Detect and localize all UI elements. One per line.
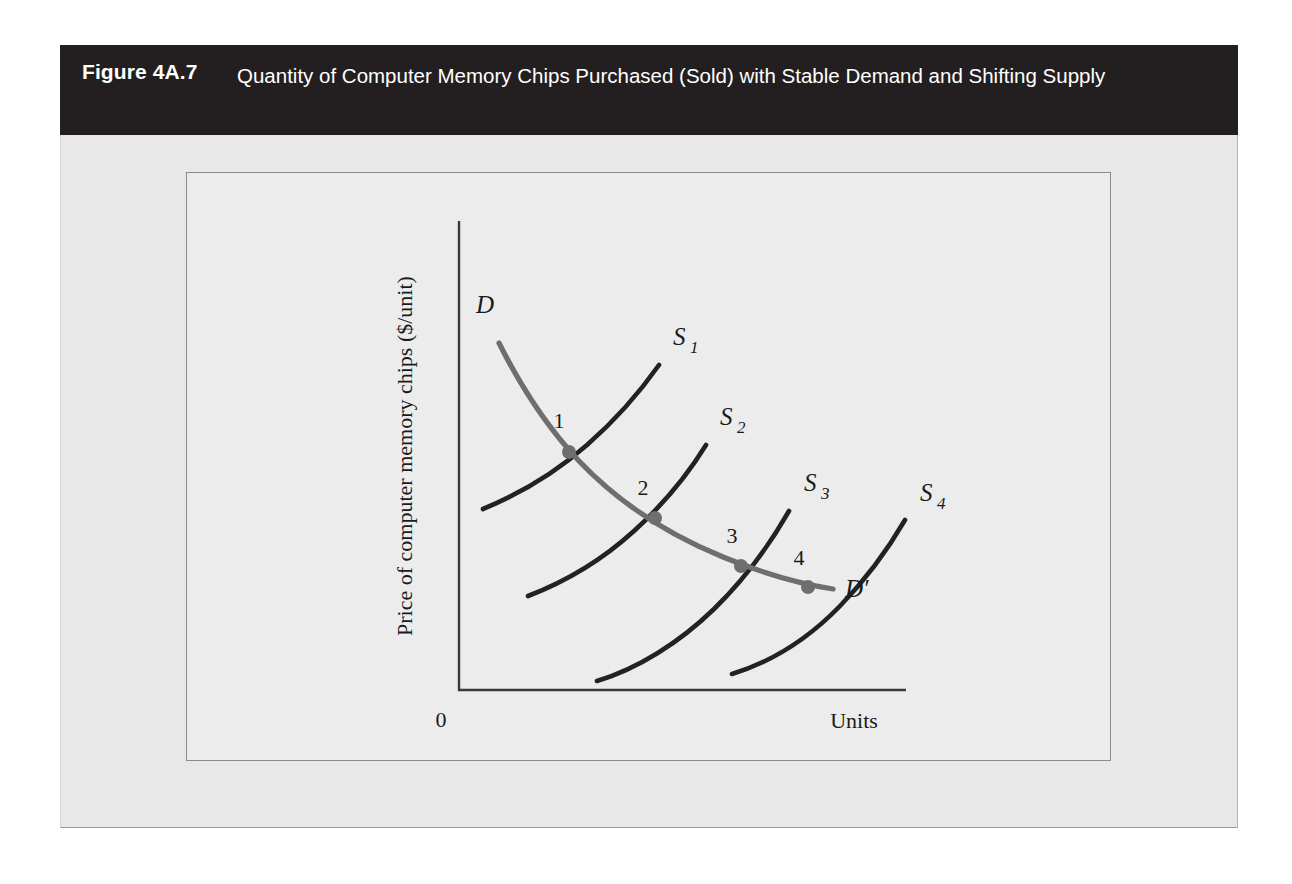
supply-demand-chart: Price of computer memory chips ($/unit) …: [187, 173, 1110, 760]
equilibrium-point-1: [562, 445, 576, 459]
supply-label-s3: S 3: [804, 469, 830, 503]
origin-label: 0: [436, 707, 447, 732]
supply-label-s3-letter: S: [804, 469, 817, 496]
plot-frame: Price of computer memory chips ($/unit) …: [186, 172, 1111, 761]
demand-curve: [499, 343, 833, 589]
point-label-1: 1: [554, 408, 565, 433]
supply-label-s2-letter: S: [720, 403, 733, 430]
supply-label-s1-subscript: 1: [690, 338, 699, 357]
supply-label-s4-letter: S: [920, 479, 933, 506]
supply-label-s3-subscript: 3: [820, 484, 830, 503]
figure-number: Figure 4A.7: [82, 60, 197, 84]
supply-label-s2: S 2: [720, 403, 746, 437]
figure-body-panel: Price of computer memory chips ($/unit) …: [60, 135, 1238, 828]
point-label-4: 4: [794, 545, 805, 570]
y-axis-title: Price of computer memory chips ($/unit): [392, 276, 417, 636]
supply-curve-s4: [732, 520, 905, 674]
demand-curve-group: [499, 343, 833, 589]
figure-container: Figure 4A.7 Quantity of Computer Memory …: [60, 45, 1238, 829]
figure-header-bar: Figure 4A.7 Quantity of Computer Memory …: [60, 45, 1238, 135]
supply-label-s4: S 4: [920, 479, 946, 513]
point-label-2: 2: [638, 475, 649, 500]
supply-label-s4-subscript: 4: [937, 494, 946, 513]
supply-label-s1-letter: S: [673, 323, 686, 350]
point-label-3: 3: [727, 523, 738, 548]
x-axis-end-label: Units: [830, 708, 878, 733]
figure-caption: Quantity of Computer Memory Chips Purcha…: [237, 61, 1197, 90]
demand-curve-label: D: [475, 291, 494, 318]
x-axis-title: Quantity purchased: [593, 754, 765, 760]
demand-prime-curve-label: D′: [844, 575, 869, 602]
equilibrium-point-4: [801, 580, 815, 594]
supply-curve-s1: [483, 365, 659, 509]
equilibrium-point-2: [648, 511, 662, 525]
supply-curves: [483, 365, 905, 681]
chart-axes: [458, 221, 906, 691]
supply-label-s1: S 1: [673, 323, 699, 357]
equilibrium-point-3: [734, 559, 748, 573]
supply-label-s2-subscript: 2: [737, 418, 746, 437]
